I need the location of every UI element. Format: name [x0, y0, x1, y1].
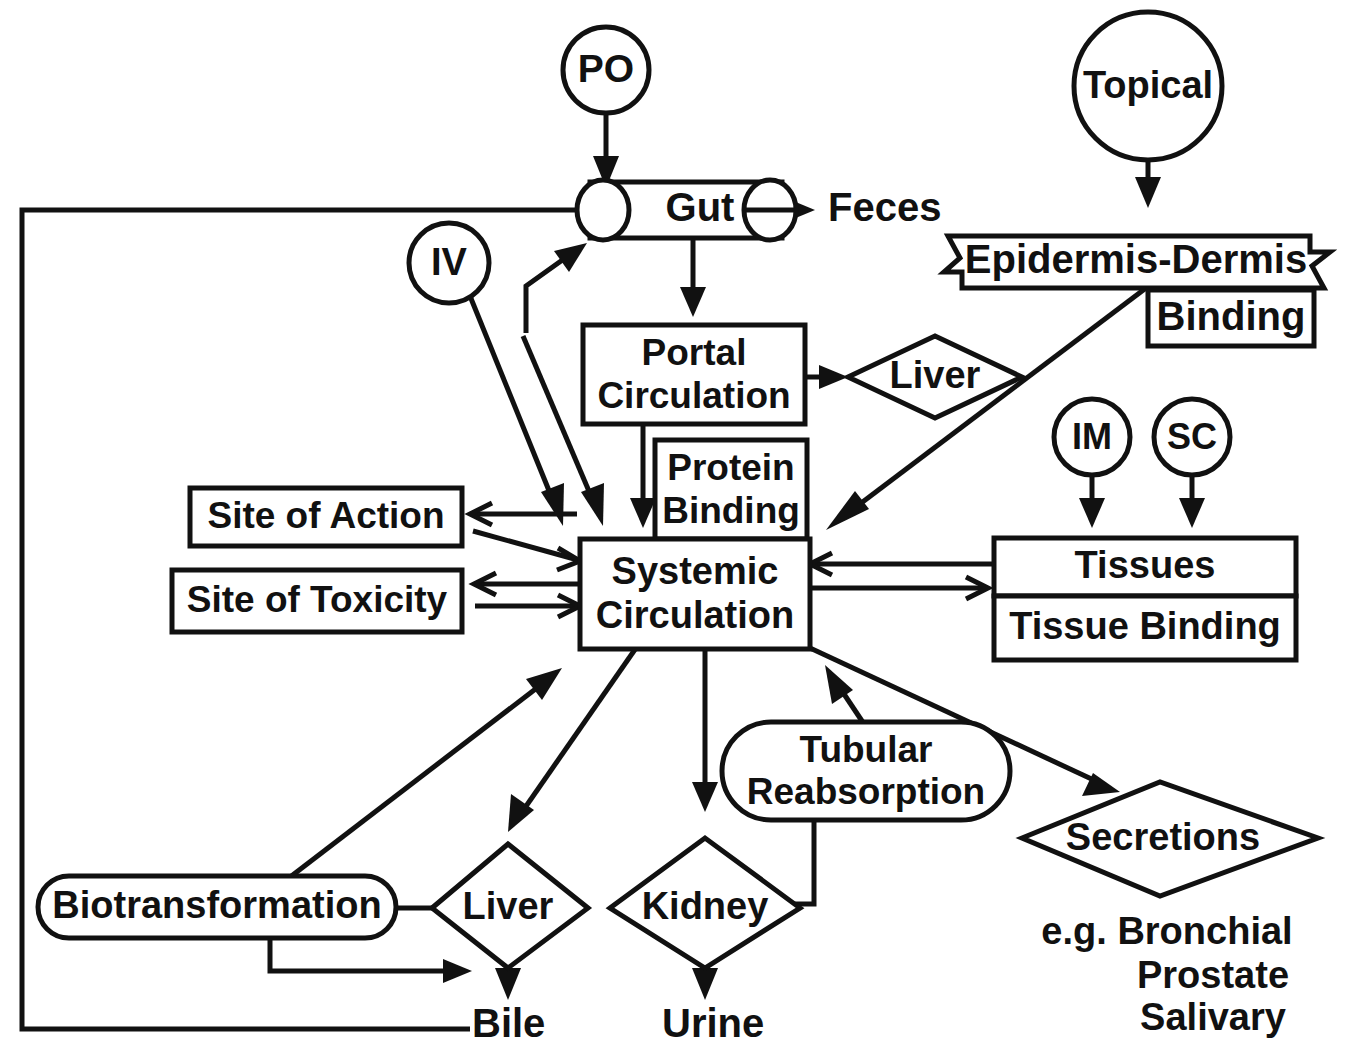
diagram-canvas: PO IV Topical IM SC Gut: [0, 0, 1346, 1051]
node-gut[interactable]: Gut: [577, 180, 796, 240]
node-tubular-reabsorption-label-line1: Tubular: [800, 729, 933, 770]
node-tissues-label: Tissues: [1075, 544, 1216, 586]
route-topical-label: Topical: [1083, 64, 1213, 106]
route-topical[interactable]: Topical: [1074, 12, 1222, 160]
node-systemic-circulation-label-line2: Circulation: [596, 594, 794, 636]
edge-systemic-to-kidney: [692, 648, 718, 812]
route-iv-label: IV: [431, 241, 468, 283]
node-biotransformation[interactable]: Biotransformation: [38, 876, 396, 938]
edge-sc-to-tissues: [1179, 472, 1205, 528]
node-tissues[interactable]: Tissues: [994, 538, 1296, 596]
node-site-of-action-label: Site of Action: [207, 495, 444, 536]
pharmacokinetics-flowchart: PO IV Topical IM SC Gut: [0, 0, 1346, 1051]
node-tubular-reabsorption-label-line2: Reabsorption: [747, 771, 985, 812]
node-feces-label: Feces: [828, 185, 941, 229]
edge-topical-to-epidermis: [1135, 155, 1161, 208]
route-sc[interactable]: SC: [1154, 399, 1230, 475]
node-bile-label: Bile: [472, 1001, 545, 1045]
node-epidermis-dermis[interactable]: Epidermis-Dermis: [944, 236, 1330, 288]
node-epidermis-dermis-label: Epidermis-Dermis: [965, 237, 1307, 281]
node-liver-lower[interactable]: Liver: [432, 844, 588, 968]
route-po[interactable]: PO: [563, 27, 649, 113]
node-kidney[interactable]: Kidney: [610, 838, 800, 968]
route-im[interactable]: IM: [1054, 399, 1130, 475]
route-im-label: IM: [1072, 416, 1112, 457]
node-liver-upper-label: Liver: [890, 354, 981, 396]
node-binding-label: Binding: [1157, 294, 1306, 338]
node-secretions[interactable]: Secretions: [1022, 782, 1318, 896]
node-portal-circulation-label-line2: Circulation: [597, 375, 790, 416]
node-portal-circulation-label-line1: Portal: [642, 332, 747, 373]
node-systemic-circulation-label-line1: Systemic: [612, 550, 779, 592]
edge-im-to-tissues: [1079, 472, 1105, 528]
edge-systemic-tissues: [810, 553, 992, 599]
edge-portal-to-liver-upper: [805, 365, 848, 389]
edge-gut-to-portal-circulation: [680, 240, 706, 317]
node-systemic-circulation[interactable]: Systemic Circulation: [580, 539, 810, 649]
edge-iv-to-systemic: [470, 296, 564, 526]
node-liver-upper[interactable]: Liver: [848, 336, 1022, 418]
node-biotransformation-label: Biotransformation: [52, 884, 381, 926]
node-binding[interactable]: Binding: [1148, 290, 1314, 346]
node-kidney-label: Kidney: [642, 885, 769, 927]
node-site-of-toxicity-label: Site of Toxicity: [187, 579, 448, 620]
route-sc-label: SC: [1167, 416, 1217, 457]
node-secretions-label: Secretions: [1066, 816, 1260, 858]
edge-systemic-site-of-action: [470, 503, 580, 570]
edge-systemic-to-liver-lower: [508, 648, 636, 832]
node-portal-circulation[interactable]: Portal Circulation: [583, 325, 805, 424]
node-urine-label: Urine: [662, 1001, 764, 1045]
route-iv[interactable]: IV: [409, 223, 489, 303]
node-tissue-binding-label: Tissue Binding: [1009, 605, 1281, 647]
node-tubular-reabsorption[interactable]: Tubular Reabsorption: [722, 722, 1010, 820]
secretions-note-line1: e.g. Bronchial: [1041, 910, 1292, 952]
node-tissue-binding[interactable]: Tissue Binding: [994, 596, 1296, 660]
edge-po-to-gut: [593, 113, 619, 188]
edge-systemic-site-of-toxicity: [474, 573, 580, 617]
node-gut-label: Gut: [666, 185, 735, 229]
secretions-note-line3: Salivary: [1140, 996, 1286, 1038]
secretions-note-line2: Prostate: [1137, 954, 1289, 996]
edge-biotransformation-to-bile: [270, 935, 472, 983]
edge-portal-to-systemic: [630, 424, 656, 528]
node-liver-lower-label: Liver: [463, 885, 554, 927]
node-protein-binding-label-line2: Binding: [662, 490, 800, 531]
node-site-of-toxicity[interactable]: Site of Toxicity: [172, 570, 462, 632]
edge-kidney-to-tubular: [782, 815, 814, 904]
edge-iv-to-gut: [526, 243, 587, 333]
node-protein-binding-label-line1: Protein: [667, 447, 794, 488]
node-site-of-action[interactable]: Site of Action: [190, 488, 462, 546]
node-protein-binding[interactable]: Protein Binding: [655, 440, 807, 539]
route-po-label: PO: [578, 47, 634, 90]
